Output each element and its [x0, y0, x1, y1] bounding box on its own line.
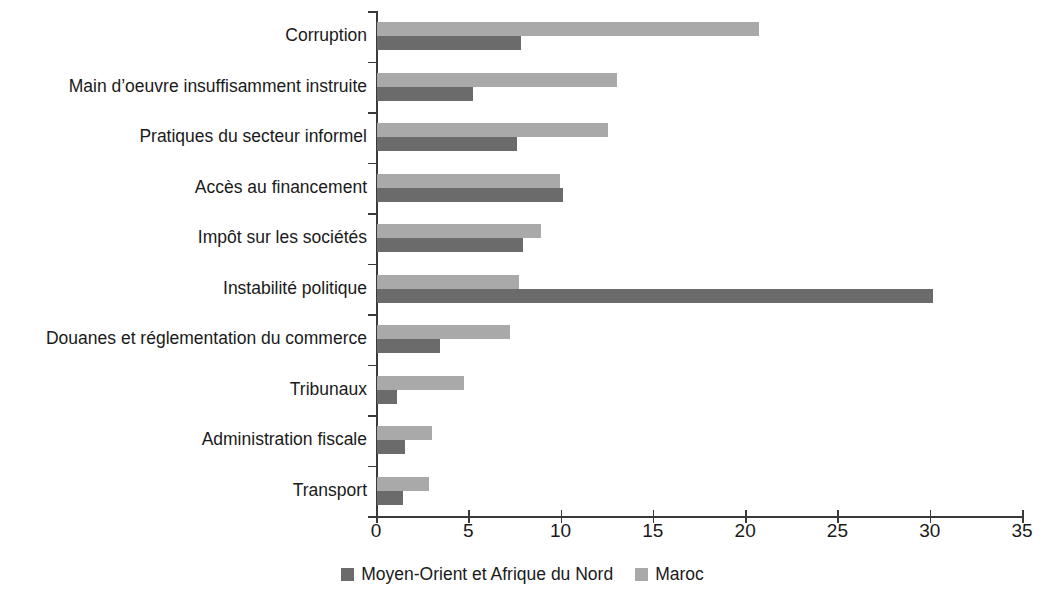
- legend-label: Moyen-Orient et Afrique du Nord: [361, 566, 613, 584]
- bar-mena: [377, 289, 933, 303]
- x-axis-tick-label: 10: [550, 521, 571, 540]
- x-axis-line: [376, 516, 1022, 518]
- y-axis-tick: [368, 466, 376, 468]
- legend-swatch-icon: [635, 568, 648, 581]
- category-label: Transport: [6, 482, 376, 500]
- bar-maroc: [377, 275, 519, 289]
- x-axis-tick-label: 0: [371, 521, 382, 540]
- y-axis-tick: [368, 365, 376, 367]
- bar-mena: [377, 238, 523, 252]
- horizontal-bar-chart: CorruptionMain d’oeuvre insuffisamment i…: [0, 0, 1045, 594]
- y-axis-tick: [368, 314, 376, 316]
- y-axis-tick: [368, 264, 376, 266]
- category-label: Pratiques du secteur informel: [6, 128, 376, 146]
- legend-item: Maroc: [635, 566, 704, 584]
- category-label: Administration fiscale: [6, 431, 376, 449]
- bar-maroc: [377, 123, 608, 137]
- bar-mena: [377, 188, 563, 202]
- category-label: Main d’oeuvre insuffisamment instruite: [6, 78, 376, 96]
- legend-item: Moyen-Orient et Afrique du Nord: [341, 566, 613, 584]
- x-axis-tick-label: 25: [827, 521, 848, 540]
- bar-maroc: [377, 174, 560, 188]
- plot-area: [376, 11, 1022, 516]
- category-label: Impôt sur les sociétés: [6, 229, 376, 247]
- category-label: Accès au financement: [6, 179, 376, 197]
- category-label: Tribunaux: [6, 381, 376, 399]
- y-axis-tick: [368, 415, 376, 417]
- bar-mena: [377, 491, 403, 505]
- bar-maroc: [377, 22, 759, 36]
- bar-maroc: [377, 376, 464, 390]
- x-axis-tick-label: 30: [919, 521, 940, 540]
- chart-legend: Moyen-Orient et Afrique du NordMaroc: [0, 566, 1045, 584]
- bar-maroc: [377, 325, 510, 339]
- category-label: Instabilité politique: [6, 280, 376, 298]
- bar-mena: [377, 339, 440, 353]
- x-axis-tick-label: 5: [463, 521, 474, 540]
- legend-swatch-icon: [341, 568, 354, 581]
- bar-maroc: [377, 73, 617, 87]
- bar-mena: [377, 137, 517, 151]
- y-axis-tick: [368, 112, 376, 114]
- bar-maroc: [377, 224, 541, 238]
- legend-label: Maroc: [655, 566, 704, 584]
- y-axis-tick: [368, 11, 376, 13]
- y-axis-tick: [368, 62, 376, 64]
- x-axis-tick-label: 35: [1011, 521, 1032, 540]
- y-axis-tick: [368, 516, 376, 518]
- category-label: Corruption: [6, 27, 376, 45]
- bar-mena: [377, 440, 405, 454]
- x-axis-tick-label: 20: [735, 521, 756, 540]
- bar-maroc: [377, 426, 432, 440]
- y-axis-tick: [368, 163, 376, 165]
- category-label: Douanes et réglementation du commerce: [6, 330, 376, 348]
- bar-mena: [377, 87, 473, 101]
- bar-mena: [377, 390, 397, 404]
- y-axis-tick: [368, 213, 376, 215]
- x-axis-tick-label: 15: [642, 521, 663, 540]
- bar-maroc: [377, 477, 429, 491]
- bar-mena: [377, 36, 521, 50]
